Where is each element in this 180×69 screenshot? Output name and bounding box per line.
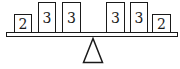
weight-label: 2	[19, 17, 28, 31]
weight-label: 3	[43, 11, 52, 25]
weight-box-left-3: 3	[62, 2, 81, 33]
balance-scale-diagram: 2 3 3 3 3 2	[0, 0, 180, 69]
weight-box-right-2: 3	[130, 2, 148, 33]
weight-label: 2	[157, 17, 166, 31]
weight-box-right-3: 2	[152, 14, 171, 33]
weight-box-right-1: 3	[106, 2, 125, 33]
weight-label: 3	[111, 11, 120, 25]
weight-box-left-2: 3	[38, 2, 56, 33]
weight-box-left-1: 2	[14, 14, 32, 33]
weight-label: 3	[67, 11, 76, 25]
fulcrum-triangle-icon	[82, 37, 104, 64]
weight-label: 3	[135, 11, 144, 25]
